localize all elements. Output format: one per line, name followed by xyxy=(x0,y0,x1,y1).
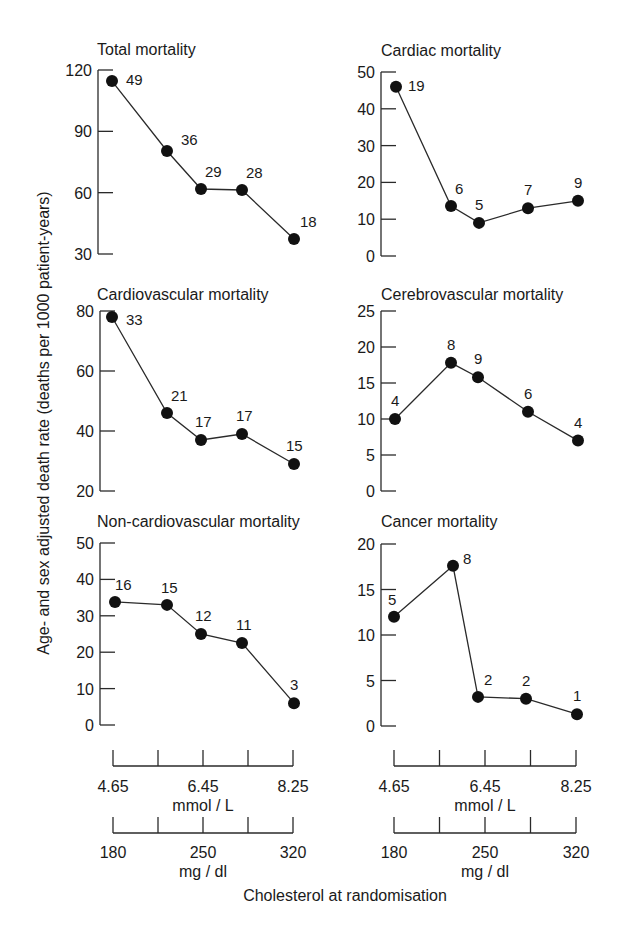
y-tick-label: 60 xyxy=(76,363,94,380)
series-line xyxy=(112,81,294,239)
y-axis-title: Age- and sex adjusted death rate (deaths… xyxy=(35,191,52,654)
y-tick-label: 20 xyxy=(357,536,375,553)
x-tick-label: 180 xyxy=(100,844,127,861)
panel-total-mortality: Total mortality3060901204936292818 xyxy=(65,41,316,263)
data-point xyxy=(161,599,173,611)
y-tick-label: 10 xyxy=(76,681,94,698)
y-tick-label: 120 xyxy=(65,62,92,79)
x-axes-left: 4.656.458.25mmol / L180250320mg / dl xyxy=(97,750,308,880)
count-label: 9 xyxy=(574,174,582,191)
count-label: 5 xyxy=(388,591,396,608)
count-label: 7 xyxy=(524,181,532,198)
data-point xyxy=(195,628,207,640)
x-axes-right: 4.656.458.25mmol / L180250320mg / dl xyxy=(378,750,591,880)
panel-title: Cerebrovascular mortality xyxy=(381,286,563,303)
y-tick-label: 20 xyxy=(357,339,375,356)
y-tick-label: 50 xyxy=(357,64,375,81)
data-point xyxy=(472,371,484,383)
x-tick-label: 180 xyxy=(381,844,408,861)
y-tick-label: 25 xyxy=(357,303,375,320)
y-tick-label: 30 xyxy=(76,608,94,625)
data-point xyxy=(522,406,534,418)
data-point xyxy=(522,202,534,214)
count-label: 36 xyxy=(181,131,198,148)
y-tick-label: 40 xyxy=(76,423,94,440)
x-unit-label: mg / dl xyxy=(179,863,227,880)
data-point xyxy=(445,200,457,212)
x-unit-label: mmol / L xyxy=(454,797,515,814)
y-tick-label: 0 xyxy=(85,717,94,734)
data-point xyxy=(195,434,207,446)
y-tick-label: 20 xyxy=(76,644,94,661)
data-point xyxy=(195,183,207,195)
count-label: 9 xyxy=(474,350,482,367)
count-label: 8 xyxy=(463,550,471,567)
count-label: 12 xyxy=(195,607,212,624)
count-label: 21 xyxy=(171,387,188,404)
y-tick-label: 80 xyxy=(76,303,94,320)
count-label: 8 xyxy=(447,336,455,353)
data-point xyxy=(473,217,485,229)
panel-non-cardiovascular-mortality: Non-cardiovascular mortality010203040501… xyxy=(76,513,300,734)
data-point xyxy=(445,357,457,369)
y-tick-label: 20 xyxy=(357,174,375,191)
panel-title: Cancer mortality xyxy=(381,513,497,530)
panel-title: Non-cardiovascular mortality xyxy=(97,513,300,530)
data-point xyxy=(520,693,532,705)
y-tick-label: 60 xyxy=(74,185,92,202)
y-tick-label: 10 xyxy=(357,211,375,228)
series-line xyxy=(396,87,578,223)
data-point xyxy=(472,691,484,703)
data-point xyxy=(572,195,584,207)
x-tick-label: 4.65 xyxy=(97,778,128,795)
count-label: 6 xyxy=(524,385,532,402)
panel-title: Total mortality xyxy=(97,41,196,58)
panel-cardiac-mortality: Cardiac mortality01020304050196579 xyxy=(357,42,584,265)
count-label: 18 xyxy=(300,213,317,230)
data-point xyxy=(389,413,401,425)
y-tick-label: 30 xyxy=(74,246,92,263)
y-tick-label: 0 xyxy=(366,718,375,735)
y-tick-label: 10 xyxy=(357,411,375,428)
y-tick-label: 10 xyxy=(357,627,375,644)
panel-title: Cardiac mortality xyxy=(381,42,501,59)
x-unit-label: mg / dl xyxy=(461,863,509,880)
y-tick-label: 50 xyxy=(76,535,94,552)
count-label: 33 xyxy=(126,311,143,328)
x-tick-label: 250 xyxy=(190,844,217,861)
count-label: 11 xyxy=(236,616,252,633)
count-label: 1 xyxy=(573,687,581,704)
y-tick-label: 15 xyxy=(357,375,375,392)
data-point xyxy=(572,435,584,447)
count-label: 15 xyxy=(286,437,303,454)
x-axis-title: Cholesterol at randomisation xyxy=(243,887,447,904)
data-point xyxy=(390,81,402,93)
series-line xyxy=(395,363,578,441)
panel-cerebrovascular-mortality: Cerebrovascular mortality051015202548964 xyxy=(357,286,584,500)
count-label: 4 xyxy=(391,392,399,409)
x-tick-label: 6.45 xyxy=(187,778,218,795)
data-point xyxy=(571,708,583,720)
y-tick-label: 0 xyxy=(366,248,375,265)
y-tick-label: 40 xyxy=(357,101,375,118)
count-label: 6 xyxy=(455,180,463,197)
data-point xyxy=(161,145,173,157)
data-point xyxy=(236,637,248,649)
count-label: 19 xyxy=(408,77,425,94)
count-label: 17 xyxy=(195,413,212,430)
count-label: 29 xyxy=(205,163,222,180)
y-tick-label: 0 xyxy=(366,483,375,500)
count-label: 2 xyxy=(522,672,530,689)
count-label: 2 xyxy=(484,671,492,688)
data-point xyxy=(388,611,400,623)
y-tick-label: 5 xyxy=(366,447,375,464)
data-point xyxy=(106,311,118,323)
y-tick-label: 30 xyxy=(357,138,375,155)
count-label: 15 xyxy=(161,579,178,596)
x-tick-label: 8.25 xyxy=(560,778,591,795)
y-tick-label: 20 xyxy=(76,483,94,500)
x-tick-label: 6.45 xyxy=(469,778,500,795)
x-unit-label: mmol / L xyxy=(172,797,233,814)
data-point xyxy=(288,458,300,470)
series-line xyxy=(394,566,577,714)
